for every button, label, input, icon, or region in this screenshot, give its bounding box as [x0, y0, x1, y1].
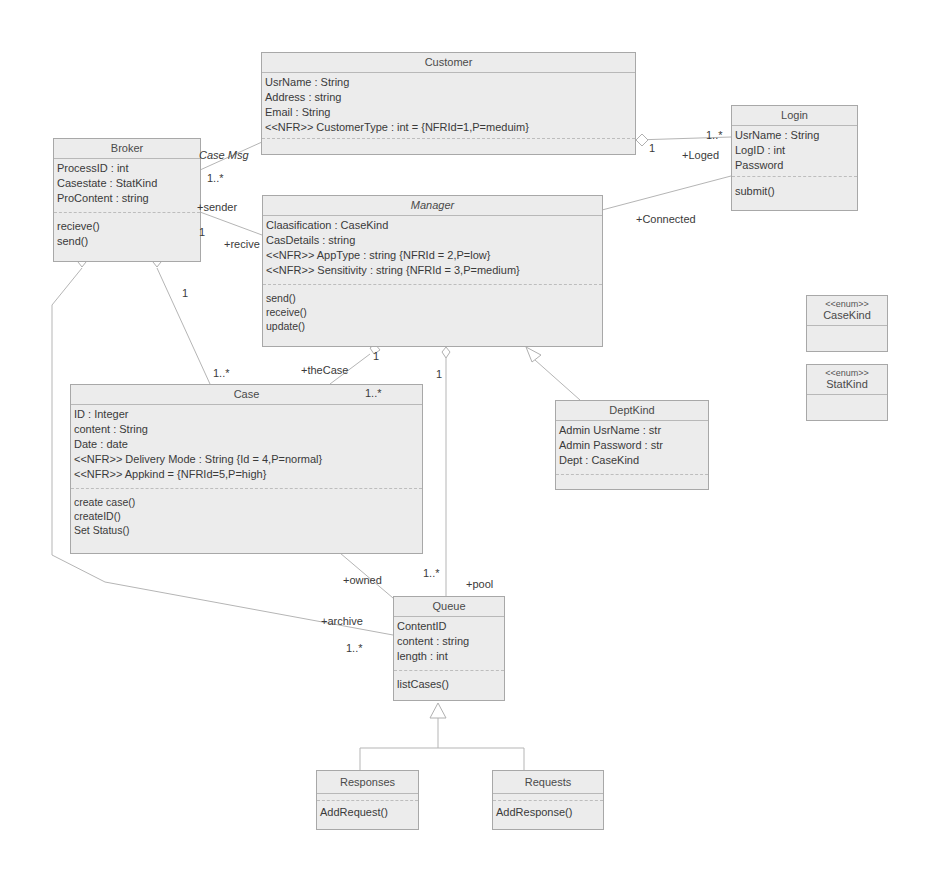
- literals-section: [807, 395, 887, 412]
- role-label-owned: +owned: [343, 574, 382, 586]
- class-name: Login: [732, 106, 857, 126]
- operations-section: submit(): [732, 177, 857, 202]
- class-name: Broker: [54, 139, 200, 159]
- attributes-section: UsrName : String LogID : int Password: [732, 126, 857, 177]
- literals-section: [807, 326, 887, 343]
- role-label-recive: +recive: [224, 238, 260, 250]
- attribute: <<NFR>> CustomerType : int = {NFRId=1,P=…: [265, 120, 632, 135]
- role-label-thecase: +theCase: [301, 364, 348, 376]
- attribute: <<NFR>> Delivery Mode : String {Id = 4,P…: [74, 452, 419, 467]
- multiplicity-label: 1: [436, 368, 442, 380]
- enum-casekind[interactable]: <<enum>> CaseKind: [806, 295, 888, 352]
- class-name: DeptKind: [556, 401, 708, 421]
- attribute: Admin Password : str: [559, 438, 705, 453]
- role-label-archive: +archive: [321, 615, 363, 627]
- class-responses[interactable]: Responses AddRequest(): [316, 770, 419, 830]
- operations-section: listCases(): [394, 671, 504, 695]
- operations-section: AddResponse(): [493, 801, 603, 823]
- class-broker[interactable]: Broker ProcessID : int Casestate : StatK…: [53, 138, 201, 262]
- attributes-section: ID : Integer content : String Date : dat…: [71, 405, 422, 489]
- attribute: ProContent : string: [57, 191, 197, 206]
- class-name: Customer: [262, 53, 635, 73]
- operation: receive(): [266, 305, 599, 319]
- attribute: Admin UsrName : str: [559, 423, 705, 438]
- class-name: Responses: [317, 771, 418, 794]
- operations-section: [262, 139, 635, 152]
- class-requests[interactable]: Requests AddResponse(): [492, 770, 604, 830]
- multiplicity-label: 1..*: [346, 642, 363, 654]
- operations-section: recieve() send(): [54, 213, 200, 252]
- attribute: <<NFR>> Appkind = {NFRId=5,P=high}: [74, 467, 419, 482]
- class-name: Queue: [394, 597, 504, 617]
- attributes-section: [317, 794, 418, 801]
- attribute: Casestate : StatKind: [57, 176, 197, 191]
- role-label-pool: +pool: [466, 578, 493, 590]
- attributes-section: ContentID content : string length : int: [394, 617, 504, 671]
- multiplicity-label: 1: [649, 142, 655, 154]
- operations-section: create case() createID() Set Status(): [71, 489, 422, 540]
- attribute: Claasification : CaseKind: [266, 218, 599, 233]
- operation: send(): [266, 291, 599, 305]
- multiplicity-label: 1..*: [706, 129, 723, 141]
- attribute: length : int: [397, 649, 501, 664]
- operation: recieve(): [57, 219, 197, 234]
- class-case[interactable]: Case ID : Integer content : String Date …: [70, 384, 423, 554]
- attributes-section: UsrName : String Address : string Email …: [262, 73, 635, 139]
- multiplicity-label: 1..*: [207, 172, 224, 184]
- attributes-section: ProcessID : int Casestate : StatKind Pro…: [54, 159, 200, 213]
- multiplicity-label: 1: [373, 350, 379, 362]
- class-deptkind[interactable]: DeptKind Admin UsrName : str Admin Passw…: [555, 400, 709, 490]
- attribute: ProcessID : int: [57, 161, 197, 176]
- class-customer[interactable]: Customer UsrName : String Address : stri…: [261, 52, 636, 155]
- multiplicity-label: 1: [182, 287, 188, 299]
- operation: create case(): [74, 495, 419, 509]
- enum-header: <<enum>> StatKind: [807, 365, 887, 395]
- operations-section: [556, 475, 708, 486]
- class-queue[interactable]: Queue ContentID content : string length …: [393, 596, 505, 701]
- enum-statkind[interactable]: <<enum>> StatKind: [806, 364, 888, 421]
- stereotype: <<enum>>: [807, 368, 887, 378]
- class-name: Manager: [263, 196, 602, 216]
- attributes-section: Claasification : CaseKind CasDetails : s…: [263, 216, 602, 285]
- operation: submit(): [735, 184, 854, 199]
- attribute: UsrName : String: [265, 75, 632, 90]
- attribute: Dept : CaseKind: [559, 453, 705, 468]
- attribute: <<NFR>> Sensitivity : string {NFRId = 3,…: [266, 263, 599, 278]
- stereotype: <<enum>>: [807, 299, 887, 309]
- multiplicity-label: 1..*: [365, 387, 382, 399]
- attribute: Password: [735, 158, 854, 173]
- operation: Set Status(): [74, 523, 419, 537]
- multiplicity-label: 1..*: [213, 367, 230, 379]
- attribute: CasDetails : string: [266, 233, 599, 248]
- attribute: Date : date: [74, 437, 419, 452]
- class-name: StatKind: [807, 378, 887, 390]
- operation: update(): [266, 319, 599, 333]
- operation: listCases(): [397, 677, 501, 692]
- attribute: content : String: [74, 422, 419, 437]
- attribute: ContentID: [397, 619, 501, 634]
- attribute: <<NFR>> AppType : string {NFRId = 2,P=lo…: [266, 248, 599, 263]
- class-login[interactable]: Login UsrName : String LogID : int Passw…: [731, 105, 858, 211]
- operation: createID(): [74, 509, 419, 523]
- operation: send(): [57, 234, 197, 249]
- attribute: ID : Integer: [74, 407, 419, 422]
- multiplicity-label: 1: [199, 226, 205, 238]
- attributes-section: Admin UsrName : str Admin Password : str…: [556, 421, 708, 475]
- attributes-section: [493, 794, 603, 801]
- association-name-case-msg: Case Msg: [199, 149, 249, 161]
- enum-header: <<enum>> CaseKind: [807, 296, 887, 326]
- operations-section: send() receive() update(): [263, 285, 602, 336]
- class-name: Requests: [493, 771, 603, 794]
- operation: AddRequest(): [320, 805, 415, 820]
- attribute: UsrName : String: [735, 128, 854, 143]
- attribute: Address : string: [265, 90, 632, 105]
- attribute: LogID : int: [735, 143, 854, 158]
- operation: AddResponse(): [496, 805, 600, 820]
- class-name: CaseKind: [807, 309, 887, 321]
- attribute: content : string: [397, 634, 501, 649]
- class-manager[interactable]: Manager Claasification : CaseKind CasDet…: [262, 195, 603, 347]
- role-label-sender: +sender: [197, 201, 237, 213]
- operations-section: AddRequest(): [317, 801, 418, 823]
- role-label-loged: +Loged: [682, 149, 719, 161]
- role-label-connected: +Connected: [636, 213, 696, 225]
